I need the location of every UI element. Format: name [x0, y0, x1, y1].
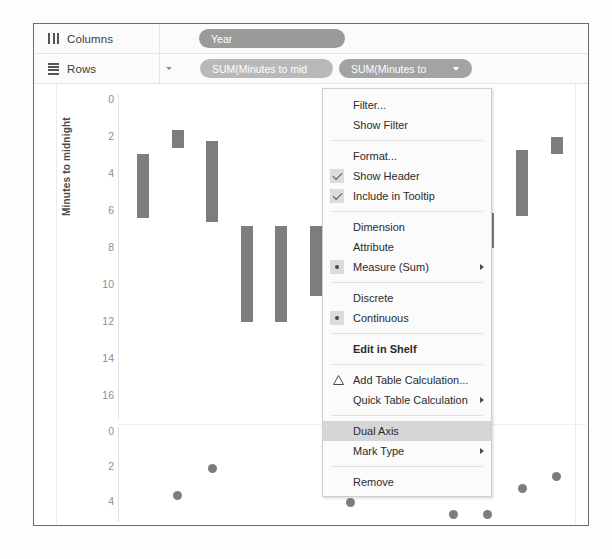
menu-item-dual-axis[interactable]: Dual Axis — [323, 421, 491, 441]
y-tick-label: 0 — [84, 425, 114, 437]
point-mark[interactable] — [483, 510, 492, 519]
menu-separator — [331, 333, 483, 334]
menu-item-attribute[interactable]: Attribute — [323, 237, 491, 257]
menu-separator — [331, 282, 483, 283]
bar-mark[interactable] — [551, 137, 563, 154]
pill-year[interactable]: Year — [199, 29, 345, 48]
delta-icon — [333, 375, 343, 384]
rows-shelf-dropzone[interactable]: SUM(Minutes to mid SUM(Minutes to — [160, 54, 588, 84]
menu-item-label: Remove — [353, 476, 394, 488]
menu-separator — [331, 415, 483, 416]
point-mark[interactable] — [552, 472, 561, 481]
menu-item-label: Include in Tooltip — [353, 190, 435, 202]
menu-item-continuous[interactable]: Continuous — [323, 308, 491, 328]
field-context-menu[interactable]: Filter...Show FilterFormat...Show Header… — [322, 88, 492, 497]
menu-item-label: Add Table Calculation... — [353, 374, 468, 386]
shelf-area: Columns Year Rows SUM(Minutes to mid — [34, 24, 588, 84]
point-mark[interactable] — [449, 510, 458, 519]
menu-item-show-filter[interactable]: Show Filter — [323, 115, 491, 135]
menu-item-label: Show Filter — [353, 119, 408, 131]
rows-shelf-label: Rows — [67, 63, 96, 75]
menu-separator — [331, 211, 483, 212]
bar-mark[interactable] — [206, 141, 218, 222]
point-mark[interactable] — [518, 484, 527, 493]
bar-mark[interactable] — [137, 154, 149, 219]
menu-item-discrete[interactable]: Discrete — [323, 288, 491, 308]
menu-item-label: Format... — [353, 150, 397, 162]
bar-mark[interactable] — [241, 226, 253, 322]
submenu-arrow-icon — [480, 264, 484, 270]
menu-item-show-header[interactable]: Show Header — [323, 166, 491, 186]
y-axis-title: Minutes to midnight — [61, 117, 72, 216]
menu-item-edit-in-shelf[interactable]: Edit in Shelf — [323, 339, 491, 359]
menu-item-label: Show Header — [353, 170, 420, 182]
rows-shelf-caret-icon[interactable] — [166, 67, 172, 70]
menu-separator — [331, 140, 483, 141]
point-mark[interactable] — [208, 464, 217, 473]
y-tick-label: 2 — [84, 460, 114, 472]
columns-shelf-label-cell: Columns — [34, 24, 160, 54]
pane-right-edge — [575, 84, 576, 525]
menu-item-label: Dimension — [353, 221, 405, 233]
bar-mark[interactable] — [516, 150, 528, 216]
bar-mark[interactable] — [275, 226, 287, 322]
menu-item-remove[interactable]: Remove — [323, 472, 491, 492]
checkmark-icon — [330, 189, 344, 203]
menu-item-label: Dual Axis — [353, 425, 399, 437]
menu-item-label: Filter... — [353, 99, 386, 111]
lower-y-axis-ticks: 024 — [74, 84, 114, 525]
point-mark[interactable] — [173, 491, 182, 500]
pill-year-label: Year — [211, 33, 232, 45]
columns-shelf-label: Columns — [67, 33, 113, 45]
menu-item-label: Quick Table Calculation — [353, 394, 468, 406]
columns-icon — [48, 33, 59, 44]
menu-item-label: Attribute — [353, 241, 394, 253]
submenu-arrow-icon — [480, 448, 484, 454]
menu-item-include-in-tooltip[interactable]: Include in Tooltip — [323, 186, 491, 206]
pill-sum-minutes-to-midnight-2-label: SUM(Minutes to — [351, 63, 426, 75]
radio-selected-icon — [330, 311, 344, 325]
menu-item-label: Edit in Shelf — [353, 343, 417, 355]
menu-item-label: Continuous — [353, 312, 409, 324]
pill-sum-minutes-to-midnight-1-label: SUM(Minutes to mid — [212, 63, 307, 75]
rows-icon — [48, 63, 59, 74]
pane-divider-left — [56, 84, 57, 525]
submenu-arrow-icon — [480, 397, 484, 403]
menu-item-add-table-calculation[interactable]: Add Table Calculation... — [323, 370, 491, 390]
radio-selected-icon — [330, 260, 344, 274]
menu-separator — [331, 466, 483, 467]
chevron-down-icon[interactable] — [453, 67, 459, 71]
menu-item-quick-table-calculation[interactable]: Quick Table Calculation — [323, 390, 491, 410]
checkmark-icon — [330, 169, 344, 183]
menu-item-label: Mark Type — [353, 445, 404, 457]
bar-mark[interactable] — [310, 226, 322, 296]
upper-axis-rule — [118, 94, 119, 420]
columns-shelf[interactable]: Columns Year — [34, 24, 588, 54]
y-tick-label: 4 — [84, 495, 114, 507]
bar-mark[interactable] — [172, 130, 184, 148]
pill-sum-minutes-to-midnight-1[interactable]: SUM(Minutes to mid — [200, 59, 333, 78]
menu-separator — [331, 364, 483, 365]
tableau-screenshot: Columns Year Rows SUM(Minutes to mid — [0, 0, 612, 559]
menu-item-format[interactable]: Format... — [323, 146, 491, 166]
menu-item-measure-sum[interactable]: Measure (Sum) — [323, 257, 491, 277]
point-mark[interactable] — [346, 498, 355, 507]
rows-shelf-label-cell: Rows — [34, 54, 160, 84]
menu-item-mark-type[interactable]: Mark Type — [323, 441, 491, 461]
menu-item-label: Discrete — [353, 292, 393, 304]
pill-sum-minutes-to-midnight-2[interactable]: SUM(Minutes to — [339, 59, 472, 78]
columns-shelf-dropzone[interactable]: Year — [160, 24, 588, 54]
chart-canvas: Minutes to midnight 0246810121416 024 — [34, 84, 588, 525]
lower-axis-rule — [118, 427, 119, 522]
menu-item-dimension[interactable]: Dimension — [323, 217, 491, 237]
rows-shelf[interactable]: Rows SUM(Minutes to mid SUM(Minutes to — [34, 54, 588, 84]
menu-item-label: Measure (Sum) — [353, 261, 429, 273]
menu-item-filter[interactable]: Filter... — [323, 95, 491, 115]
